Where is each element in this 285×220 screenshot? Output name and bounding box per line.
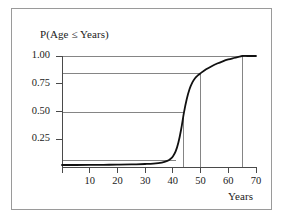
y-axis-tick-label: 0.75: [22, 77, 50, 88]
cdf-curve: [62, 56, 256, 165]
x-axis-tick-label: 40: [161, 175, 185, 186]
x-axis-title: Years: [228, 190, 253, 202]
reference-lines-group: [62, 56, 256, 167]
x-axis-tick-label: 60: [216, 175, 240, 186]
y-axis-ticks: [56, 56, 62, 139]
chart-figure: P(Age ≤ Years) Years 0.250.500.751.00 10…: [0, 0, 285, 220]
y-axis-tick-label: 1.00: [22, 49, 50, 60]
x-axis-ticks: [62, 167, 256, 173]
x-axis-tick-label: 30: [133, 175, 157, 186]
x-axis-tick-label: 50: [189, 175, 213, 186]
y-axis-tick-label: 0.50: [22, 105, 50, 116]
y-axis-tick-label: 0.25: [22, 132, 50, 143]
axes-group: [62, 56, 256, 167]
x-axis-tick-label: 10: [78, 175, 102, 186]
x-axis-tick-label: 20: [105, 175, 129, 186]
chart-title: P(Age ≤ Years): [40, 28, 109, 40]
x-axis-tick-label: 70: [244, 175, 268, 186]
